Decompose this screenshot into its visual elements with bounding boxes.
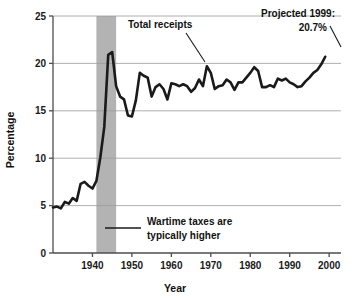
tax-receipts-chart: 0510152025 1940195019601970198019902000 … [0,0,352,298]
y-tick-label: 5 [40,200,46,211]
x-tick-label: 2000 [318,260,341,271]
x-tick-label: 1990 [279,260,302,271]
x-tick-label: 1950 [121,260,144,271]
y-tick-label: 0 [40,248,46,259]
y-tick-label: 10 [35,153,47,164]
x-tick-label: 1980 [239,260,262,271]
annotation-wartime-line1: Wartime taxes are [147,216,233,227]
annotation-total-receipts-label: Total receipts [128,19,193,30]
y-tick-label: 15 [35,105,47,116]
y-axis-title: Percentage [4,112,16,169]
x-tick-label: 1940 [81,260,104,271]
chart-canvas: 0510152025 1940195019601970198019902000 … [0,0,352,298]
x-tick-label: 1960 [160,260,183,271]
annotation-projected-line2: 20.7% [299,22,327,33]
annotation-projected-line1: Projected 1999: [261,8,335,19]
x-tick-label: 1970 [200,260,223,271]
y-tick-label: 25 [35,11,47,22]
y-tick-label: 20 [35,58,47,69]
x-axis-title: Year [164,282,186,294]
annotation-wartime-line2: typically higher [147,230,220,241]
